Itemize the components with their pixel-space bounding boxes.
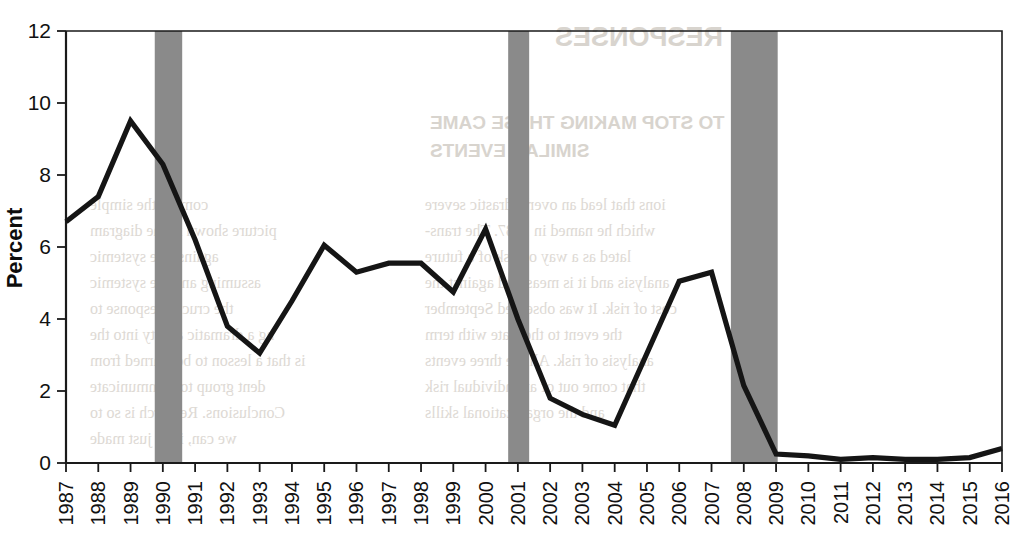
plot-frame-top-right [66,31,1002,463]
recession-band-2001 [508,31,529,463]
x-tick-label: 1999 [442,481,464,526]
x-tick-label: 2015 [959,481,981,526]
y-axis-title: Percent [2,207,27,288]
y-tick-label: 10 [28,91,51,114]
x-tick-label: 2003 [571,481,593,526]
x-tick-label: 2006 [668,481,690,526]
plot-frame [66,31,1002,463]
x-tick-label: 1998 [410,481,432,526]
y-tick-label: 8 [39,163,51,186]
x-tick-label: 2007 [701,481,723,526]
x-tick-label: 2001 [507,481,529,526]
x-tick-label: 1997 [378,481,400,526]
x-tick-label: 2011 [830,481,852,524]
x-tick-label: 1987 [55,481,77,526]
plot-axis-left-bottom [66,31,1002,463]
x-tick-label: 1992 [216,481,238,526]
chart-figure: RESPONSES TO STOP MAKING THESE CAME SIMI… [0,0,1030,537]
x-tick-label: 1995 [313,481,335,526]
x-tick-label: 1991 [184,481,206,526]
x-tick-label: 2005 [636,481,658,526]
recession-band-2008 [731,31,778,463]
x-tick-label: 2014 [926,481,948,526]
line-chart-svg: 024681012 198719881989199019911992199319… [0,0,1030,537]
x-tick-label: 2000 [475,481,497,526]
y-axis: 024681012 [28,19,66,474]
x-tick-label: 2013 [894,481,916,526]
x-tick-label: 1988 [87,481,109,526]
y-tick-label: 12 [28,19,51,42]
x-tick-label: 1996 [345,481,367,526]
x-tick-label: 1994 [281,481,303,526]
data-series-line [66,121,1002,459]
y-tick-label: 6 [39,235,51,258]
x-tick-label: 1989 [120,481,142,526]
x-tick-label: 2002 [539,481,561,526]
x-tick-label: 2008 [733,481,755,526]
recession-bands [155,31,778,463]
x-tick-label: 2010 [797,481,819,526]
x-axis: 1987198819891990199119921993199419951996… [55,463,1013,526]
x-tick-label: 2016 [991,481,1013,526]
x-tick-label: 2004 [604,481,626,526]
y-tick-label: 4 [39,307,51,330]
x-tick-label: 1990 [152,481,174,526]
recession-band-1990 [155,31,182,463]
x-tick-label: 2009 [765,481,787,526]
y-tick-label: 0 [39,451,51,474]
series-path-percent [66,121,1002,459]
y-tick-label: 2 [39,379,51,402]
x-tick-label: 2012 [862,481,884,526]
x-tick-label: 1993 [249,481,271,526]
